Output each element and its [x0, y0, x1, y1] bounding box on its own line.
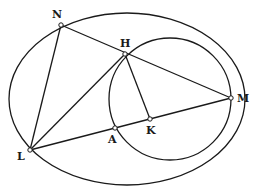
segment-lm — [30, 98, 231, 150]
point-a — [113, 126, 117, 130]
point-label-a: A — [107, 133, 117, 146]
geometry-figure: NHMLAK — [0, 0, 253, 191]
labels-group: NHMLAK — [17, 8, 249, 163]
segment-hk — [125, 54, 150, 119]
point-n — [59, 23, 63, 27]
point-h — [123, 52, 127, 56]
point-label-k: K — [146, 124, 156, 137]
segment-nl — [30, 25, 61, 150]
point-label-h: H — [120, 37, 130, 50]
figure-canvas: NHMLAK — [0, 0, 253, 191]
point-m — [229, 96, 233, 100]
point-label-n: N — [52, 8, 62, 21]
point-l — [28, 148, 32, 152]
segment-nm — [61, 25, 231, 98]
point-label-l: L — [17, 150, 25, 163]
point-k — [148, 117, 152, 121]
points-group — [28, 23, 233, 152]
inner-circle — [109, 38, 231, 160]
point-label-m: M — [237, 92, 249, 105]
segments-group — [30, 25, 231, 150]
